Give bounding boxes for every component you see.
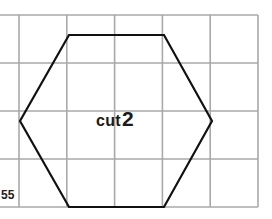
cut-label-number: 2 — [122, 107, 134, 130]
cut-label: cut2 — [96, 108, 134, 129]
cut-label-word: cut — [96, 112, 121, 129]
grid-diagram — [0, 0, 272, 219]
page-number: 55 — [1, 189, 14, 201]
